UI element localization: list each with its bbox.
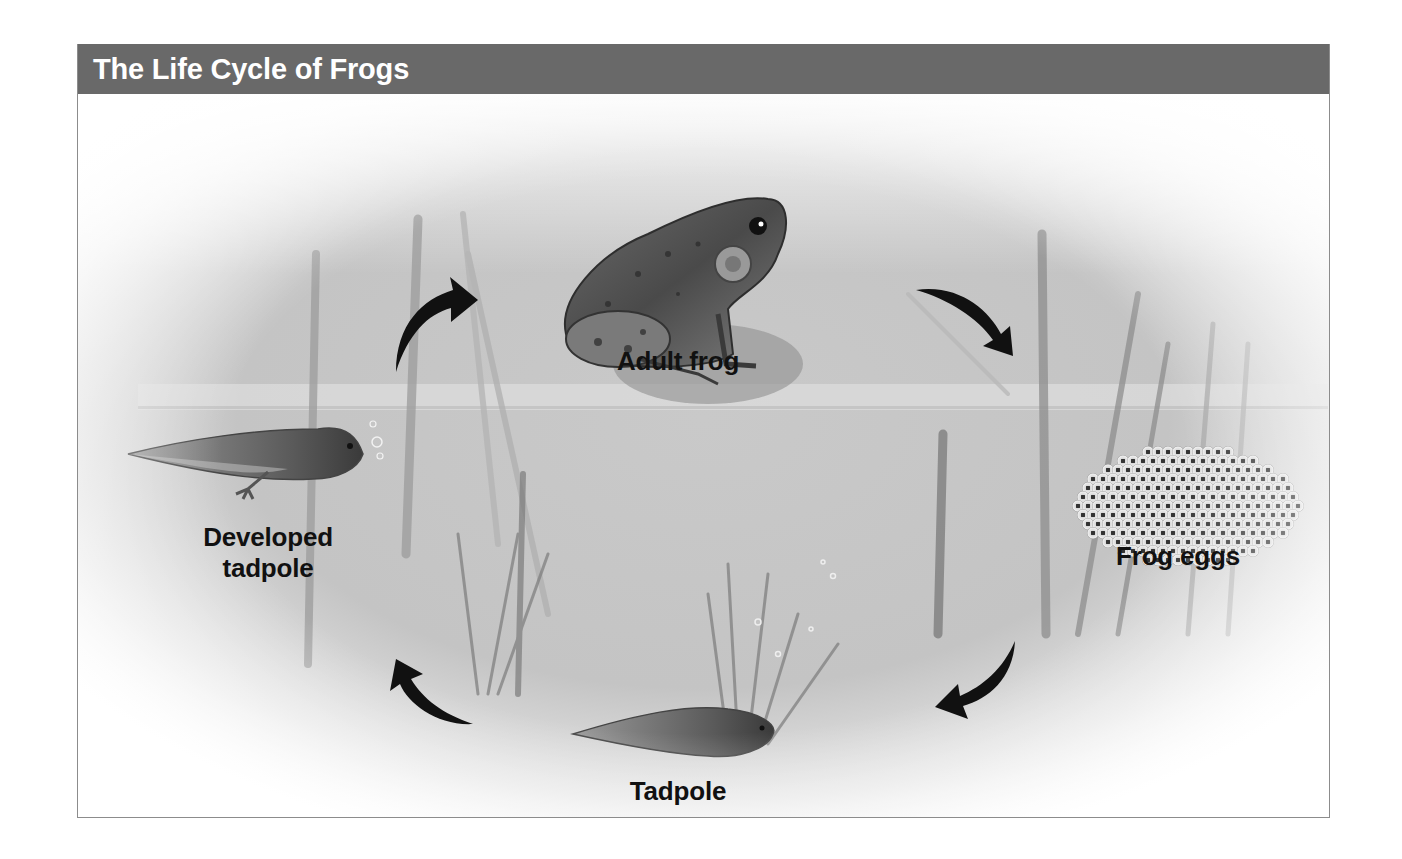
edge-vignette [78, 94, 1329, 817]
label-tadpole: Tadpole [578, 776, 778, 807]
figure-frame: The Life Cycle of Frogs [77, 44, 1330, 818]
label-developed-tadpole-line2: tadpole [168, 553, 368, 584]
label-developed-tadpole-line1: Developed [168, 522, 368, 553]
figure-title: The Life Cycle of Frogs [93, 50, 409, 88]
label-frog-eggs: Frog eggs [1098, 541, 1258, 572]
title-bar: The Life Cycle of Frogs [78, 44, 1329, 94]
label-adult-frog: Adult frog [578, 346, 778, 377]
pond-scene [78, 94, 1329, 817]
label-developed-tadpole: Developed tadpole [168, 522, 368, 584]
